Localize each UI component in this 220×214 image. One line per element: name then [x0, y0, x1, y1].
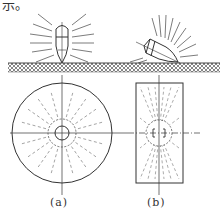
- ground-surface: [8, 63, 220, 72]
- truncated-text: 示。: [2, 0, 28, 13]
- figure-svg: [0, 0, 220, 214]
- circular-pattern-plan: [10, 75, 128, 195]
- caption-a: (a): [50, 196, 68, 209]
- caption-b: (b): [147, 196, 166, 209]
- vertical-probe: [56, 22, 68, 63]
- rectangular-pattern-plan: [128, 75, 200, 195]
- diagram-canvas: 示。: [0, 0, 220, 214]
- tilted-probe: [136, 39, 180, 63]
